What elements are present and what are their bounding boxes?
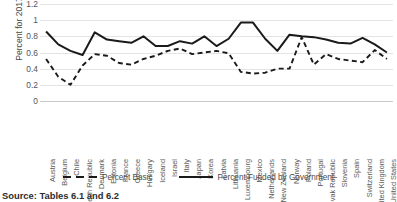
series-lines xyxy=(40,4,393,101)
source-note: Source: Tables 6.1 and 6.2 xyxy=(2,190,119,201)
legend-item[interactable]: Percent Basic xyxy=(63,173,153,182)
x-axis-tick-labels: AustriaBelgiumChileCzech RepublicDenmark… xyxy=(40,103,393,161)
plot-area xyxy=(40,4,393,101)
legend-label: Percent Basic xyxy=(102,173,153,182)
y-axis-tick-label: 0.2 xyxy=(26,81,38,89)
dashed-line-icon xyxy=(63,173,97,181)
y-axis-tick-labels: 1.210.80.60.40.20 xyxy=(14,0,38,105)
y-axis-tick-label: 1 xyxy=(33,16,38,24)
y-axis-tick-label: 0.6 xyxy=(26,49,38,57)
series-line xyxy=(46,37,387,85)
solid-line-icon xyxy=(179,173,213,181)
y-axis-tick-label: 0.4 xyxy=(26,65,38,73)
legend-item[interactable]: Percent Funded by Government xyxy=(179,173,335,182)
y-axis-tick-label: 0.8 xyxy=(26,32,38,40)
y-axis-tick-label: 1.2 xyxy=(26,0,38,8)
chart-legend: Percent BasicPercent Funded by Governmen… xyxy=(0,170,397,184)
x-axis-line xyxy=(40,101,393,102)
legend-label: Percent Funded by Government xyxy=(218,173,335,182)
y-axis-tick-label: 0 xyxy=(33,97,38,105)
chart-figure: Percent for 2017 1.210.80.60.40.20 Austr… xyxy=(0,0,397,202)
